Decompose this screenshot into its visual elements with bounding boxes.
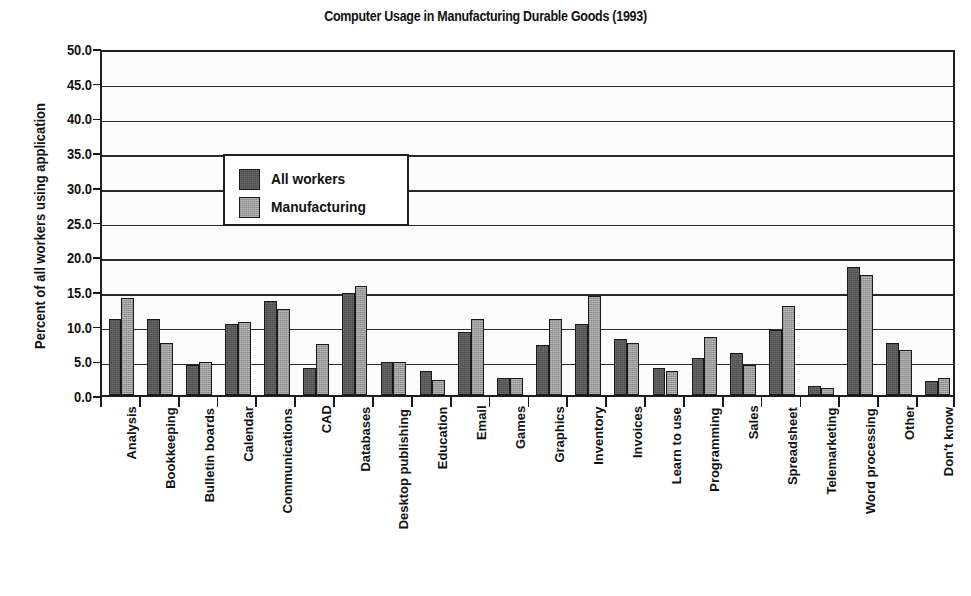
x-tick-label: Communications bbox=[280, 408, 295, 513]
x-tick-label: Don't know bbox=[941, 407, 956, 476]
bar-group bbox=[802, 52, 841, 395]
bar bbox=[393, 362, 406, 395]
bar bbox=[536, 345, 549, 395]
y-tick-label: 20.0 bbox=[44, 250, 92, 266]
bar bbox=[471, 319, 484, 395]
bar-group bbox=[840, 52, 879, 395]
x-tick-label: Games bbox=[513, 406, 528, 449]
y-tick-mark bbox=[93, 188, 101, 190]
bar bbox=[821, 388, 834, 395]
legend-label-all-workers: All workers bbox=[271, 171, 345, 187]
x-tick-label: Sales bbox=[746, 405, 761, 439]
y-tick-label: 45.0 bbox=[44, 77, 92, 93]
bar bbox=[627, 343, 640, 395]
chart-title: Computer Usage in Manufacturing Durable … bbox=[68, 8, 903, 24]
x-tick-label: Invoices bbox=[630, 406, 645, 458]
bar bbox=[614, 339, 627, 395]
y-tick-mark bbox=[93, 292, 101, 294]
y-tick-label: 5.0 bbox=[44, 354, 92, 370]
bar bbox=[588, 296, 601, 395]
y-tick-mark bbox=[93, 257, 101, 259]
bar-group bbox=[879, 52, 918, 395]
bar bbox=[666, 371, 679, 395]
bar bbox=[860, 275, 873, 395]
bar bbox=[458, 332, 471, 395]
legend-item-all-workers: All workers bbox=[239, 165, 407, 193]
bar-group bbox=[452, 52, 491, 395]
bar bbox=[497, 378, 510, 395]
y-tick-mark bbox=[93, 119, 101, 121]
bar-group bbox=[607, 52, 646, 395]
y-tick-mark bbox=[93, 84, 101, 86]
x-tick-label: Graphics bbox=[552, 406, 567, 462]
y-tick-mark bbox=[93, 362, 101, 364]
bar bbox=[420, 371, 433, 395]
bar bbox=[730, 353, 743, 395]
bar bbox=[575, 324, 588, 395]
y-tick-mark bbox=[93, 327, 101, 329]
bar bbox=[238, 322, 251, 395]
bar bbox=[186, 365, 199, 395]
bar bbox=[847, 267, 860, 395]
y-tick-label: 40.0 bbox=[44, 111, 92, 127]
bar bbox=[510, 378, 523, 395]
bar bbox=[808, 386, 821, 395]
x-tick-label: Bookkeeping bbox=[163, 407, 178, 488]
y-tick-label: 25.0 bbox=[44, 216, 92, 232]
bar-group bbox=[724, 52, 763, 395]
bar bbox=[925, 381, 938, 395]
x-tick-label: Analysis bbox=[124, 406, 139, 459]
bar bbox=[316, 344, 329, 395]
x-tick-label: Telemarketing bbox=[824, 408, 839, 495]
bar bbox=[704, 337, 717, 395]
bar bbox=[199, 362, 212, 395]
bar-group bbox=[141, 52, 180, 395]
bar-group bbox=[491, 52, 530, 395]
plot-area: All workers Manufacturing bbox=[100, 50, 955, 397]
bar-group bbox=[102, 52, 141, 395]
y-tick-label: 0.0 bbox=[44, 389, 92, 405]
x-tick-label: CAD bbox=[319, 405, 334, 433]
bar bbox=[886, 343, 899, 395]
y-tick-label: 15.0 bbox=[44, 285, 92, 301]
bar-group bbox=[763, 52, 802, 395]
x-tick-label: Email bbox=[474, 405, 489, 440]
bar bbox=[109, 319, 122, 395]
x-tick-label: Spreadsheet bbox=[785, 407, 800, 485]
bar bbox=[160, 343, 173, 395]
bar-group bbox=[180, 52, 219, 395]
bar bbox=[692, 358, 705, 395]
x-tick-label: Databases bbox=[358, 407, 373, 472]
bar-group bbox=[413, 52, 452, 395]
y-axis-tick-labels: 50.045.040.035.030.025.020.015.010.05.00… bbox=[40, 50, 92, 397]
bar-group bbox=[646, 52, 685, 395]
bar bbox=[653, 368, 666, 395]
bar-group bbox=[685, 52, 724, 395]
bar bbox=[899, 350, 912, 395]
y-tick-label: 30.0 bbox=[44, 181, 92, 197]
bar-group bbox=[530, 52, 569, 395]
bar bbox=[549, 319, 562, 395]
bar bbox=[264, 301, 277, 395]
x-tick-label: Desktop publishing bbox=[396, 409, 411, 529]
x-tick-label: Education bbox=[435, 407, 450, 470]
bar bbox=[121, 298, 134, 395]
bar bbox=[432, 380, 445, 395]
legend-swatch-manufacturing bbox=[239, 197, 260, 218]
legend: All workers Manufacturing bbox=[223, 154, 409, 226]
x-tick-label: Calendar bbox=[241, 406, 256, 461]
bar bbox=[782, 306, 795, 395]
bar bbox=[355, 286, 368, 395]
y-tick-label: 50.0 bbox=[44, 42, 92, 58]
bar bbox=[743, 365, 756, 395]
x-tick-label: Programming bbox=[707, 408, 722, 492]
x-tick-label: Bulletin boards bbox=[202, 408, 217, 502]
bar-chart: Computer Usage in Manufacturing Durable … bbox=[0, 0, 971, 596]
x-tick-label: Inventory bbox=[591, 406, 606, 464]
bar bbox=[938, 378, 951, 395]
y-tick-mark bbox=[93, 49, 101, 51]
x-tick-label: Word processing bbox=[863, 408, 878, 514]
y-tick-label: 10.0 bbox=[44, 320, 92, 336]
legend-label-manufacturing: Manufacturing bbox=[271, 199, 366, 215]
bar bbox=[342, 293, 355, 395]
